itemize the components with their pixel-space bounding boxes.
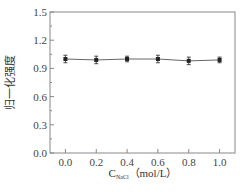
y-tick-label: 1.2 — [33, 34, 47, 46]
square-marker — [125, 57, 129, 61]
plot-border — [50, 12, 235, 153]
square-marker — [218, 58, 222, 62]
x-tick-label: 0.8 — [182, 156, 196, 168]
x-axis-title-unit: （mol/L） — [129, 167, 178, 179]
square-marker — [156, 57, 160, 61]
y-tick-label: 0.3 — [33, 119, 47, 131]
x-axis: 0.00.20.40.60.81.0 — [59, 149, 227, 168]
square-marker — [63, 57, 67, 61]
y-tick-label: 1.5 — [33, 6, 47, 18]
x-tick-label: 0.2 — [89, 156, 103, 168]
data-series — [63, 55, 221, 64]
x-axis-title-main: C — [109, 167, 116, 179]
x-axis-title: CNaCl（mol/L） — [109, 167, 178, 180]
plot-frame — [50, 12, 235, 153]
y-tick-label: 0.0 — [33, 147, 47, 159]
y-axis-title: 归一化强度 — [3, 55, 16, 110]
x-axis-title-sub: NaCl — [116, 174, 129, 180]
y-axis: 0.00.30.60.91.21.5 — [33, 6, 54, 159]
square-marker — [94, 58, 98, 62]
y-tick-label: 0.6 — [33, 91, 47, 103]
x-tick-label: 0.0 — [59, 156, 73, 168]
square-marker — [187, 59, 191, 63]
y-tick-label: 0.9 — [33, 62, 47, 74]
series-line — [65, 59, 219, 61]
chart: 0.00.30.60.91.21.5 0.00.20.40.60.81.0 归一… — [0, 0, 247, 192]
x-tick-label: 1.0 — [213, 156, 227, 168]
